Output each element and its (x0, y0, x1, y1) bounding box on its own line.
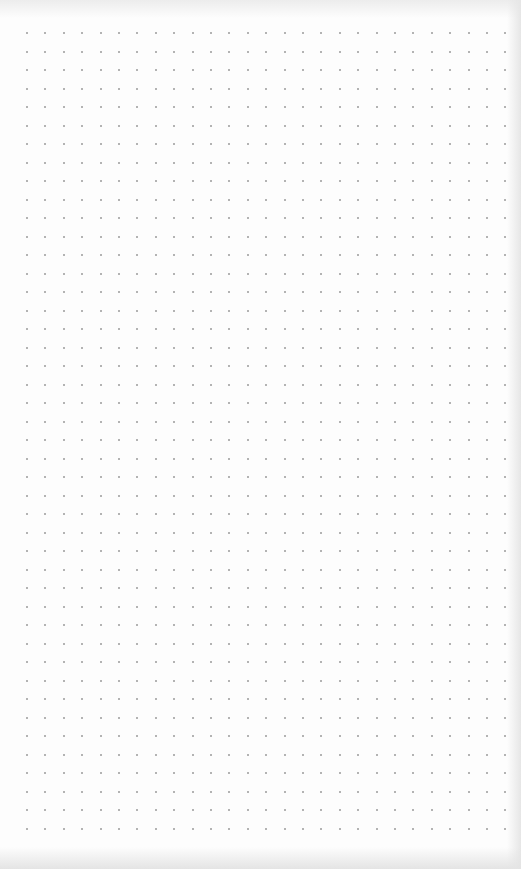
grid-dot (449, 273, 451, 275)
grid-dot (449, 291, 451, 293)
grid-dot (192, 310, 194, 312)
grid-dot (192, 254, 194, 256)
grid-dot (431, 384, 433, 386)
grid-dot (468, 587, 470, 589)
grid-dot (431, 180, 433, 182)
grid-dot (155, 550, 157, 552)
grid-dot (100, 661, 102, 663)
grid-dot (376, 476, 378, 478)
grid-dot (100, 310, 102, 312)
grid-dot (118, 735, 120, 737)
grid-dot (468, 754, 470, 756)
grid-dot (394, 273, 396, 275)
grid-dot (431, 606, 433, 608)
grid-dot (155, 291, 157, 293)
grid-dot (63, 606, 65, 608)
grid-dot (320, 199, 322, 201)
grid-dot (81, 273, 83, 275)
grid-dot (449, 661, 451, 663)
grid-dot (192, 32, 194, 34)
grid-dot (26, 550, 28, 552)
grid-dot (284, 661, 286, 663)
grid-dot (302, 569, 304, 571)
grid-dot (63, 384, 65, 386)
grid-dot (357, 735, 359, 737)
grid-dot (486, 587, 488, 589)
grid-dot (173, 698, 175, 700)
grid-dot (412, 532, 414, 534)
grid-dot (284, 680, 286, 682)
grid-dot (118, 217, 120, 219)
grid-dot (247, 550, 249, 552)
grid-dot (468, 809, 470, 811)
grid-dot (81, 384, 83, 386)
grid-dot (486, 106, 488, 108)
grid-dot (228, 365, 230, 367)
grid-dot (81, 236, 83, 238)
grid-dot (247, 365, 249, 367)
grid-dot (26, 273, 28, 275)
grid-dot (412, 328, 414, 330)
grid-dot (357, 532, 359, 534)
grid-dot (247, 643, 249, 645)
grid-dot (357, 51, 359, 53)
grid-dot (100, 32, 102, 34)
grid-dot (173, 550, 175, 552)
grid-dot (320, 458, 322, 460)
grid-dot (155, 439, 157, 441)
grid-dot (394, 236, 396, 238)
grid-dot (394, 513, 396, 515)
grid-dot (136, 772, 138, 774)
grid-dot (265, 495, 267, 497)
grid-dot (284, 254, 286, 256)
grid-dot (284, 754, 286, 756)
grid-dot (228, 310, 230, 312)
grid-dot (228, 421, 230, 423)
grid-dot (284, 291, 286, 293)
grid-dot (412, 550, 414, 552)
grid-dot (412, 698, 414, 700)
grid-dot (210, 365, 212, 367)
grid-dot (431, 680, 433, 682)
grid-dot (339, 661, 341, 663)
grid-dot (247, 791, 249, 793)
grid-dot (173, 495, 175, 497)
grid-dot (247, 661, 249, 663)
grid-dot (412, 125, 414, 127)
grid-dot (247, 513, 249, 515)
grid-dot (192, 439, 194, 441)
grid-dot (26, 513, 28, 515)
grid-dot (449, 180, 451, 182)
grid-dot (339, 162, 341, 164)
grid-dot (192, 273, 194, 275)
grid-dot (63, 32, 65, 34)
grid-dot (302, 458, 304, 460)
grid-dot (210, 347, 212, 349)
grid-dot (118, 384, 120, 386)
grid-dot (320, 772, 322, 774)
grid-dot (118, 495, 120, 497)
grid-dot (412, 88, 414, 90)
grid-dot (63, 51, 65, 53)
grid-dot (81, 569, 83, 571)
grid-dot (320, 606, 322, 608)
grid-dot (63, 254, 65, 256)
grid-dot (486, 162, 488, 164)
grid-dot (394, 809, 396, 811)
grid-dot (284, 365, 286, 367)
grid-dot (247, 384, 249, 386)
grid-dot (302, 513, 304, 515)
grid-dot (284, 809, 286, 811)
grid-dot (173, 402, 175, 404)
grid-dot (265, 143, 267, 145)
grid-dot (81, 254, 83, 256)
grid-dot (265, 661, 267, 663)
grid-dot (431, 273, 433, 275)
grid-dot (376, 199, 378, 201)
grid-dot (228, 495, 230, 497)
grid-dot (394, 661, 396, 663)
grid-dot (339, 624, 341, 626)
grid-dot (100, 532, 102, 534)
grid-dot (320, 421, 322, 423)
grid-dot (210, 125, 212, 127)
